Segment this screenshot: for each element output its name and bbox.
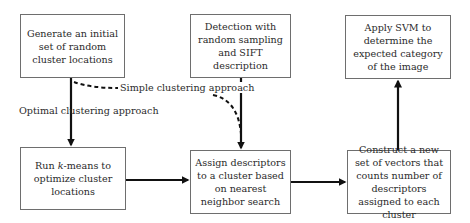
node-construct-vectors: Construct a new set of vectors that coun… <box>347 150 451 214</box>
node-kmeans-text: Run k-means to optimize cluster location… <box>24 159 122 198</box>
node-detection-text: Detection with random sampling and SIFT … <box>194 20 287 72</box>
kmeans-prefix: Run <box>35 160 58 171</box>
flowchart-canvas: Generate an initial set of random cluste… <box>0 0 470 223</box>
label-optimal-clustering: Optimal clustering approach <box>19 105 159 116</box>
node-generate-clusters: Generate an initial set of random cluste… <box>20 14 125 78</box>
node-assign-descriptors: Assign descriptors to a cluster based on… <box>190 150 291 214</box>
node-svm-text: Apply SVM to determine the expected cate… <box>349 21 447 73</box>
node-run-kmeans: Run k-means to optimize cluster location… <box>20 147 126 210</box>
label-simple-clustering: Simple clustering approach <box>120 82 254 93</box>
node-apply-svm: Apply SVM to determine the expected cate… <box>345 15 451 79</box>
node-generate-text: Generate an initial set of random cluste… <box>24 27 121 66</box>
dashed-arrow-curve-to-assign <box>213 95 241 134</box>
dashed-arrow-generate-to-assign <box>74 82 118 88</box>
node-detection-sift: Detection with random sampling and SIFT … <box>190 14 291 78</box>
node-construct-text: Construct a new set of vectors that coun… <box>351 143 447 221</box>
node-assign-text: Assign descriptors to a cluster based on… <box>194 156 287 208</box>
